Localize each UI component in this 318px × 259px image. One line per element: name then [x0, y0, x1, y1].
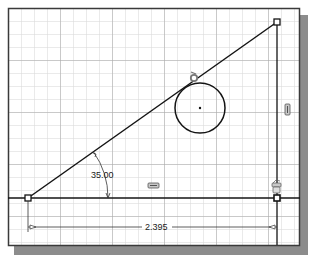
window-shadow-right	[300, 15, 308, 255]
horizontal-dimension-label: 2.395	[145, 222, 168, 232]
sketch-canvas[interactable]: 35.00 2.395	[0, 0, 318, 259]
vertical-constraint-icon[interactable]	[285, 104, 290, 115]
angle-dimension-label: 35.00	[91, 170, 114, 180]
window-shadow	[14, 246, 306, 255]
sketch-grid	[8, 8, 300, 246]
horizontal-constraint-icon[interactable]	[148, 183, 159, 188]
endpoint-bottom-left[interactable]	[25, 195, 31, 201]
circle-center-point	[199, 107, 201, 109]
endpoint-top-right[interactable]	[274, 19, 280, 25]
endpoint-bottom-right[interactable]	[274, 195, 280, 201]
